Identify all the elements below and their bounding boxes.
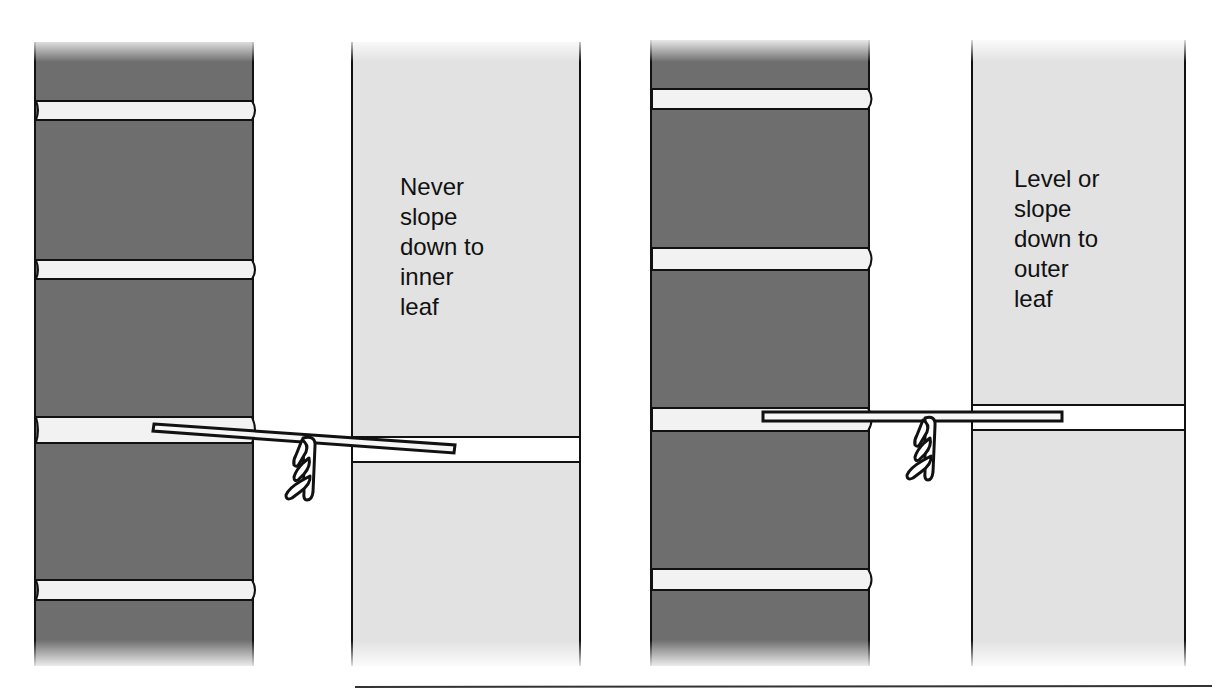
mortar-joint bbox=[652, 569, 872, 590]
mortar-joint bbox=[36, 101, 255, 120]
cavity-wall-tie-diagram bbox=[0, 0, 1224, 692]
mortar-joint bbox=[652, 89, 872, 109]
inner-leaf-blockwork bbox=[972, 40, 1185, 666]
inner-leaf-blockwork bbox=[352, 42, 580, 666]
top-fade bbox=[0, 36, 1224, 62]
bottom-fade bbox=[0, 640, 1224, 670]
bottom-rule bbox=[355, 686, 1212, 687]
outer-leaf-brickwork bbox=[35, 42, 255, 666]
panel-correct bbox=[651, 40, 1185, 666]
outer-leaf-brickwork bbox=[651, 40, 872, 666]
mortar-joint bbox=[652, 248, 872, 270]
panel-incorrect bbox=[35, 42, 580, 666]
caption-correct: Level or slope down to outer leaf bbox=[1014, 164, 1099, 314]
drip-twist-icon bbox=[907, 417, 935, 480]
mortar-joint bbox=[36, 580, 255, 600]
caption-incorrect: Never slope down to inner leaf bbox=[400, 172, 484, 322]
mortar-joint bbox=[36, 260, 255, 279]
drip-twist-icon bbox=[286, 437, 315, 500]
